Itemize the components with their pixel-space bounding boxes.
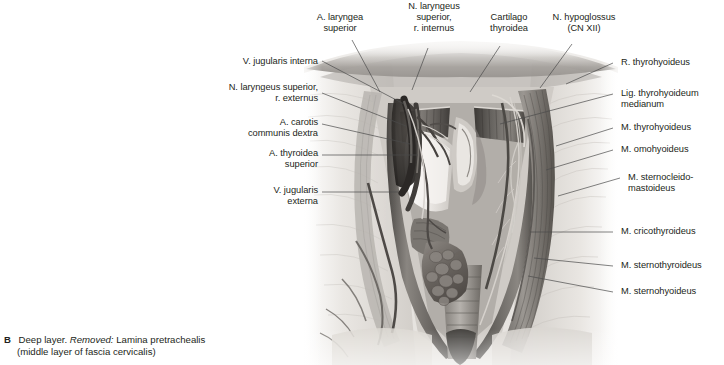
label-a-thyroidea-superior: A. thyroidea superior xyxy=(130,148,318,170)
label-n-hypoglossus: N. hypoglossus (CN XII) xyxy=(538,12,630,34)
label-a-laryngea-superior: A. laryngea superior xyxy=(300,12,380,34)
label-m-thyrohyoideus: M. thyrohyoideus xyxy=(621,122,721,133)
label-a-carotis-communis-dextra: A. carotis communis dextra xyxy=(130,117,318,139)
caption-second-line: (middle layer of fascia cervicalis) xyxy=(17,346,304,358)
label-v-jugularis-interna: V. jugularis interna xyxy=(130,56,318,67)
figure-caption: B Deep layer. Removed: Lamina pretrachea… xyxy=(4,334,304,358)
anatomical-illustration xyxy=(296,33,626,365)
label-n-laryngeus-superior-r-externus: N. laryngeus superior, r. externus xyxy=(130,82,318,104)
caption-lead-text: Deep layer. xyxy=(19,334,68,345)
label-m-sternocleidomastoideus: M. sternocleido- mastoideus xyxy=(628,172,724,194)
caption-removed-label: Removed: xyxy=(70,334,114,345)
illustration-svg xyxy=(296,33,626,365)
label-lig-thyrohyoideum-medianum: Lig. thyrohyoideum medianum xyxy=(621,88,721,110)
label-m-cricothyroideus: M. cricothyroideus xyxy=(621,226,721,237)
figure-panel: A. laryngea superior N. laryngeus superi… xyxy=(0,0,724,365)
label-m-sternohyoideus: M. sternohyoideus xyxy=(621,286,721,297)
label-r-thyrohyoideus: R. thyrohyoideus xyxy=(621,57,721,68)
label-m-sternothyroideus: M. sternothyroideus xyxy=(621,260,721,271)
label-m-omohyoideus: M. omohyoideus xyxy=(621,144,721,155)
label-v-jugularis-externa: V. jugularis externa xyxy=(130,185,318,207)
label-cartilago-thyroidea: Cartilago thyroidea xyxy=(470,12,548,34)
label-n-laryngeus-superior-r-internus: N. laryngeus superior, r. internus xyxy=(394,1,474,35)
caption-rest-text: Lamina pretrachealis xyxy=(116,334,205,345)
illustration-body xyxy=(296,33,626,365)
caption-panel-letter: B xyxy=(4,334,11,345)
